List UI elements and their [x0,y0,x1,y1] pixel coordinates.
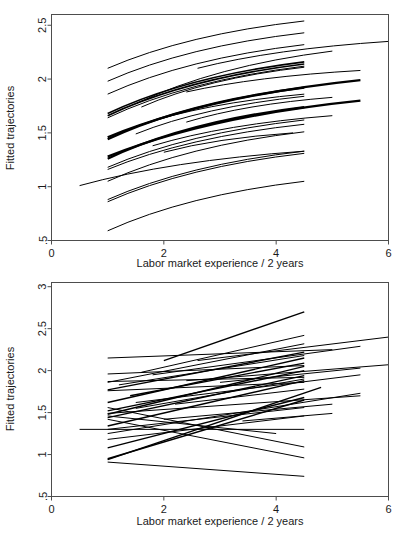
chart-svg-top: 0246 .511.522.5 Labor market experience … [0,0,410,271]
chart-svg-bottom: 0246 .511.522.53 Labor market experience… [0,271,410,542]
chart-panel-top: 0246 .511.522.5 Labor market experience … [0,0,410,271]
y-tick-label: 1 [37,451,49,457]
y-tick-label: 1 [37,184,49,190]
y-tick-label: 1.5 [37,125,49,140]
y-tick-label: .5 [37,492,49,501]
trajectory-line [186,97,332,122]
y-axis-tick-labels-top: .511.522.5 [37,18,49,245]
y-tick-label: 3 [37,284,49,290]
trajectory-line [108,88,305,140]
trajectory-line [108,366,305,374]
trajectory-line [108,101,361,157]
x-tick-label: 0 [48,247,54,259]
y-tick-label: 2.5 [37,18,49,33]
x-axis-title-bottom: Labor market experience / 2 years [137,515,304,527]
x-tick-label: 6 [385,503,391,515]
y-axis-tick-labels-bottom: .511.522.53 [37,284,49,501]
x-axis-title-top: Labor market experience / 2 years [137,257,304,269]
trajectory-line [186,70,360,92]
traj-group-top [80,21,389,231]
plot-frame-top [52,15,389,241]
plot-frame-bottom [52,283,389,497]
x-tick-label: 4 [273,503,279,515]
trajectory-line [108,462,305,476]
y-tick-label: 2 [37,76,49,82]
x-tick-label: 6 [385,247,391,259]
trajectory-line [108,181,305,231]
y-axis-title-top: Fitted trajectories [4,85,16,170]
x-axis-ticks-bottom [52,497,389,501]
x-axis-ticks-top [52,241,389,245]
y-tick-label: 2 [37,368,49,374]
trajectory-line [108,419,305,458]
y-tick-label: 1.5 [37,405,49,420]
y-tick-label: 2.5 [37,321,49,336]
y-axis-ticks-bottom [48,287,52,497]
y-tick-label: .5 [37,236,49,245]
figure-panel-pair: 0246 .511.522.5 Labor market experience … [0,0,410,542]
trajectory-line [186,365,388,381]
y-axis-title-bottom: Fitted trajectories [4,346,16,431]
traj-group-bottom [80,312,389,476]
x-tick-label: 0 [48,503,54,515]
x-axis-tick-labels-bottom: 0246 [48,503,391,515]
trajectory-line [108,408,305,447]
trajectory-line [108,80,361,137]
chart-panel-bottom: 0246 .511.522.53 Labor market experience… [0,271,410,542]
x-tick-label: 2 [161,503,167,515]
